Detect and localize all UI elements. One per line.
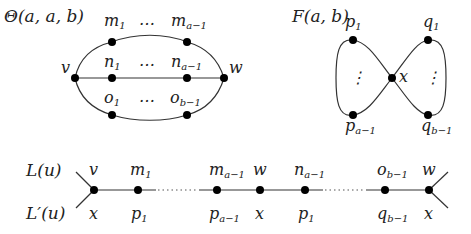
graph-diagram: Θ(a, a, b) v w m1 ma−1 … n1 na−1 … o1 ob… (0, 0, 471, 234)
node-ma (183, 38, 191, 46)
theta-title: Θ(a, a, b) (4, 6, 84, 26)
node-na (183, 74, 191, 82)
bottom-label-5: qb−1 (377, 204, 408, 224)
ellipsis-m: … (139, 10, 155, 29)
top-label-2: ma−1 (209, 160, 245, 180)
line-node-4 (301, 186, 309, 194)
figure8-title: F(a, b) (291, 6, 349, 26)
top-label-0: v (89, 160, 98, 179)
bottom-label-2: pa−1 (209, 204, 240, 224)
vdots-left: ⋮ (350, 68, 366, 87)
line-bottom-label: L′(u) (25, 203, 65, 223)
node-m1 (108, 38, 116, 46)
label-qb: qb−1 (421, 116, 452, 136)
label-x: x (399, 67, 408, 86)
ellipsis-n: … (139, 51, 155, 70)
label-pa: pa−1 (345, 116, 376, 136)
node-o1 (108, 111, 116, 119)
line-node-2 (213, 186, 221, 194)
node-v (71, 74, 79, 82)
theta-graph: Θ(a, a, b) v w m1 ma−1 … n1 na−1 … o1 ob… (4, 6, 243, 120)
label-ob: ob−1 (170, 88, 201, 108)
top-label-5: ob−1 (377, 160, 408, 180)
label-na: na−1 (171, 52, 202, 72)
line-top-label: L(u) (25, 160, 62, 180)
vdots-right: ⋮ (425, 68, 441, 87)
line-graph: L(u) L′(u) v m1 ma−1 w na−1 ob−1 w x p1 … (25, 160, 448, 224)
label-n1: n1 (104, 52, 121, 72)
ellipsis-o: … (139, 87, 155, 106)
label-q1: q1 (423, 12, 440, 32)
label-p1: p1 (345, 12, 362, 32)
bottom-label-1: p1 (131, 204, 148, 224)
line-node-5 (381, 186, 389, 194)
label-v: v (61, 58, 70, 77)
label-ma: ma−1 (171, 11, 207, 31)
line-node-3 (256, 186, 264, 194)
node-p1 (349, 36, 357, 44)
label-o1: o1 (104, 88, 120, 108)
label-m1: m1 (104, 11, 126, 31)
line-node-1 (134, 186, 142, 194)
line-node-0 (90, 186, 98, 194)
line-node-6 (425, 186, 433, 194)
bottom-label-3: x (255, 204, 264, 223)
top-label-3: w (253, 160, 267, 179)
top-label-4: na−1 (294, 160, 325, 180)
label-w: w (229, 58, 243, 77)
top-label-1: m1 (130, 160, 152, 180)
node-q1 (424, 36, 432, 44)
bottom-label-4: p1 (298, 204, 315, 224)
node-x (388, 74, 396, 82)
bottom-label-6: x (424, 204, 433, 223)
node-n1 (108, 74, 116, 82)
node-w (220, 74, 228, 82)
figure-eight-graph: F(a, b) x p1 pa−1 q1 qb−1 ⋮ ⋮ (291, 6, 452, 136)
top-label-6: w (422, 160, 436, 179)
bottom-label-0: x (89, 204, 98, 223)
node-ob (183, 111, 191, 119)
